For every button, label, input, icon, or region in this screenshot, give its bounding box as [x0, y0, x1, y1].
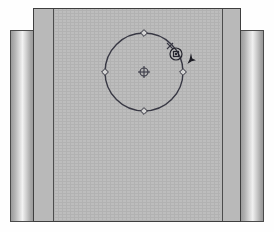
- drawing-canvas[interactable]: [54, 8, 220, 222]
- left-frame-panel: [33, 8, 55, 222]
- right-scroll-band[interactable]: [240, 30, 264, 222]
- quadrant-top-marker[interactable]: [141, 30, 148, 37]
- app-root: [0, 0, 274, 232]
- pointer-cursor-icon: [187, 53, 196, 64]
- drawing-geometry: [54, 8, 220, 222]
- left-scroll-band[interactable]: [10, 30, 34, 222]
- quadrant-bottom-marker[interactable]: [141, 108, 148, 115]
- center-snap-marker[interactable]: [138, 66, 150, 78]
- tangent-tick-icon: [167, 43, 173, 49]
- quadrant-left-marker[interactable]: [102, 69, 109, 76]
- right-frame-panel: [219, 8, 241, 222]
- quadrant-right-marker[interactable]: [180, 69, 187, 76]
- right-frame-rule: [222, 9, 223, 221]
